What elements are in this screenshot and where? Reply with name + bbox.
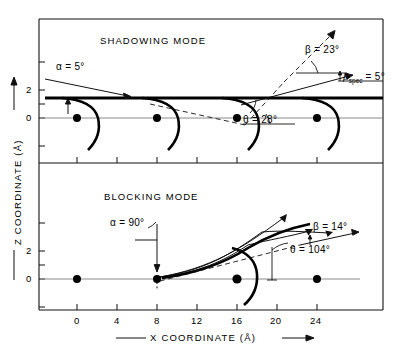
dashed-trajectory-upper: [150, 35, 331, 125]
annotation-beta-blocking: β = 14°: [313, 222, 347, 232]
annotation-alpha-blocking: α = 90°: [110, 218, 144, 228]
z-ticks-upper: [39, 62, 45, 146]
z-ticks-lower: [39, 223, 45, 307]
z-tick-label-upper-0: 0: [26, 113, 32, 123]
alpha-angle-arc-lower: [148, 222, 156, 228]
z-tick-label-lower-2: 2: [26, 246, 32, 256]
x-tick-label-16: 16: [231, 316, 242, 326]
annotation-theta-shadowing: θ = 28°: [243, 115, 277, 125]
blocking-trajectories: [160, 219, 282, 277]
panel-title-blocking: BLOCKING MODE: [104, 192, 199, 202]
annotation-beta-spec-shadowing: βspec = 5°: [343, 71, 385, 85]
z-axis-title: Z COORDINATE (Å): [13, 139, 23, 245]
z-tick-label-lower-0: 0: [26, 274, 32, 284]
x-tick-label-0: 0: [74, 316, 80, 326]
panel-title-shadowing: SHADOWING MODE: [100, 36, 206, 46]
specular-beam: [241, 73, 353, 105]
scattering-trajectory-figure: [0, 0, 400, 356]
z-tick-label-upper-2: 2: [26, 85, 32, 95]
x-ticks-lower: [77, 304, 317, 310]
blocked-trajectory-heavy: [162, 224, 310, 278]
dashed-beta-line-lower: [160, 245, 300, 281]
x-tick-label-8: 8: [154, 316, 160, 326]
x-tick-label-24: 24: [310, 316, 321, 326]
shadow-radius-arrow: [65, 99, 70, 115]
x-axis-title: X COORDINATE (Å): [150, 333, 256, 343]
x-tick-label-12: 12: [191, 316, 202, 326]
annotation-beta-shadowing: β = 23°: [305, 45, 339, 55]
annotation-alpha-shadowing: α = 5°: [56, 62, 85, 72]
x-ticks-upper: [77, 157, 317, 163]
annotation-theta-blocking: θ = 104°: [290, 245, 330, 255]
incident-beam-upper: [45, 79, 131, 99]
beta-spec-bracket: [338, 71, 342, 81]
x-tick-label-4: 4: [114, 316, 120, 326]
shadow-cone-trajectories: [62, 98, 339, 150]
x-tick-label-20: 20: [270, 316, 281, 326]
